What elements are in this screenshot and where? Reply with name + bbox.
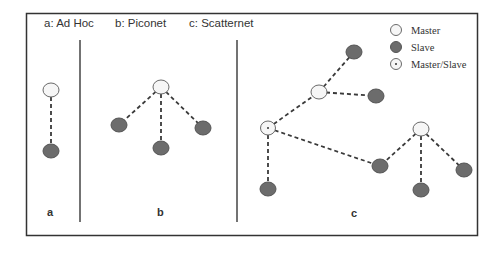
slave-node-icon — [368, 89, 384, 103]
slave-node-icon — [43, 144, 59, 158]
master-node-icon — [43, 83, 59, 97]
legend-master-label: Master — [411, 25, 441, 36]
legend-slave-icon — [391, 42, 402, 53]
slave-node-icon — [346, 45, 362, 59]
network-topology-diagram: a: Ad Hoc b: Piconet c: Scatternet Maste… — [0, 0, 502, 253]
slave-node-icon — [153, 141, 169, 155]
link-edge — [319, 92, 376, 96]
slave-node-icon — [195, 121, 211, 135]
link-edge — [268, 92, 319, 128]
link-edge — [319, 52, 354, 92]
master-node-icon — [153, 80, 169, 94]
panel-piconet — [111, 80, 211, 155]
panel-label-a: a — [47, 206, 54, 218]
header-ad-hoc: a: Ad Hoc — [44, 17, 94, 29]
diagram-frame — [27, 14, 478, 236]
panel-label-b: b — [157, 206, 164, 218]
legend: Master Slave Master/Slave — [391, 25, 467, 71]
slave-node-icon — [372, 159, 388, 173]
slave-node-icon — [413, 183, 429, 197]
link-edge — [268, 128, 380, 166]
link-edge — [161, 87, 203, 128]
legend-slave-label: Slave — [411, 42, 435, 53]
panel-ad-hoc — [43, 83, 59, 158]
legend-master-slave-label: Master/Slave — [411, 59, 467, 70]
link-edge — [119, 87, 161, 125]
header-scatternet: c: Scatternet — [189, 17, 254, 29]
header-piconet: b: Piconet — [115, 17, 167, 29]
legend-master-slave-dot-icon — [395, 63, 397, 65]
slave-node-icon — [111, 118, 127, 132]
master-node-icon — [413, 122, 429, 136]
legend-master-icon — [391, 25, 402, 36]
slave-node-icon — [260, 182, 276, 196]
slave-node-icon — [456, 163, 472, 177]
link-edge — [380, 129, 421, 166]
panel-label-c: c — [351, 207, 357, 219]
master-node-icon — [311, 85, 327, 99]
master-slave-dot-icon — [267, 127, 269, 129]
link-edge — [421, 129, 464, 170]
